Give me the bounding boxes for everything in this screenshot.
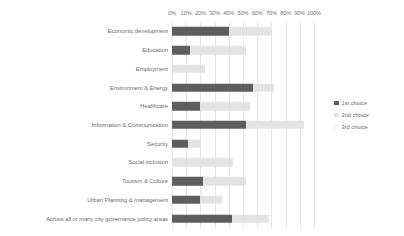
bar-track <box>172 83 314 92</box>
bar-segment-2 <box>232 214 269 223</box>
category-label: Social inclusion <box>128 158 168 166</box>
x-tick-label: 100% <box>307 9 321 17</box>
bar-segment-2 <box>253 83 274 92</box>
bar-segment-1 <box>172 139 188 148</box>
bar-track <box>172 139 314 148</box>
x-tick-label: 70% <box>266 9 277 17</box>
bar-segment-2 <box>172 65 205 74</box>
bar-track <box>172 102 314 111</box>
bar-segment-2 <box>190 46 245 55</box>
bar-track <box>172 65 314 74</box>
category-label: Education <box>142 46 168 54</box>
bar-segment-1 <box>172 102 200 111</box>
category-label: Tourism & Culture <box>122 177 168 185</box>
x-tick-label: 40% <box>223 9 234 17</box>
bar-row: Education <box>0 41 404 60</box>
bar-track <box>172 214 314 223</box>
bar-row: Social inclusion <box>0 153 404 172</box>
bar-segment-1 <box>172 27 229 36</box>
bar-row: Employment <box>0 59 404 78</box>
bar-row: Environment & Energy <box>0 78 404 97</box>
legend-label: 2nd choice <box>342 111 370 119</box>
bar-segment-2 <box>229 27 272 36</box>
bar-segment-2 <box>172 158 233 167</box>
category-label: Urban Planning & management <box>87 196 168 204</box>
category-label: Economic development <box>108 27 168 35</box>
legend-swatch-icon <box>334 113 339 118</box>
bar-track <box>172 46 314 55</box>
bar-track <box>172 27 314 36</box>
stacked-bar-chart: 0%10%20%30%40%50%60%70%80%90%100% Econom… <box>0 0 404 236</box>
legend-item[interactable]: 3rd choice <box>334 121 402 133</box>
x-tick-label: 0% <box>168 9 176 17</box>
bar-segment-2 <box>200 196 221 205</box>
bar-row: Across all or many city governance polic… <box>0 209 404 228</box>
bar-row: Urban Planning & management <box>0 191 404 210</box>
bar-segment-1 <box>172 121 246 130</box>
legend-swatch-icon <box>334 101 339 106</box>
bar-track <box>172 177 314 186</box>
bar-row: Security <box>0 134 404 153</box>
x-tick-label: 60% <box>252 9 263 17</box>
x-tick-label: 50% <box>238 9 249 17</box>
x-tick-label: 80% <box>280 9 291 17</box>
x-tick-label: 30% <box>209 9 220 17</box>
legend-label: 1st choice <box>342 99 368 107</box>
legend-item[interactable]: 2nd choice <box>334 109 402 121</box>
bar-segment-2 <box>203 177 246 186</box>
category-label: Security <box>147 140 168 148</box>
bar-segment-2 <box>200 102 250 111</box>
x-tick-label: 20% <box>195 9 206 17</box>
bar-row: Tourism & Culture <box>0 172 404 191</box>
chart-legend: 1st choice2nd choice3rd choice <box>334 97 402 133</box>
bar-track <box>172 121 314 130</box>
bar-segment-1 <box>172 177 203 186</box>
category-label: Environment & Energy <box>110 84 168 92</box>
category-label: Across all or many city governance polic… <box>46 215 168 223</box>
category-label: Healthcare <box>140 102 168 110</box>
category-label: Information & Communication <box>92 121 168 129</box>
bar-segment-1 <box>172 196 200 205</box>
bar-row: Economic development <box>0 22 404 41</box>
bar-segment-2 <box>246 121 304 130</box>
legend-swatch-icon <box>334 125 339 130</box>
category-label: Employment <box>136 65 168 73</box>
bar-segment-2 <box>188 139 201 148</box>
legend-label: 3rd choice <box>342 123 368 131</box>
bar-track <box>172 158 314 167</box>
bar-segment-1 <box>172 214 232 223</box>
x-tick-label: 10% <box>181 9 192 17</box>
bar-segment-1 <box>172 83 253 92</box>
legend-item[interactable]: 1st choice <box>334 97 402 109</box>
bar-track <box>172 196 314 205</box>
bar-segment-1 <box>172 46 190 55</box>
x-tick-label: 90% <box>294 9 305 17</box>
x-axis-tick-labels: 0%10%20%30%40%50%60%70%80%90%100% <box>172 9 314 19</box>
